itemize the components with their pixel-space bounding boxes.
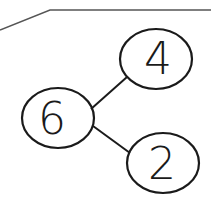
card-border-line: [0, 10, 211, 30]
part-bottom-label: 2: [148, 138, 176, 189]
whole-node: 6: [22, 88, 94, 148]
whole-label: 6: [38, 93, 66, 144]
part-node-top: 4: [120, 29, 192, 89]
part-top-label: 4: [144, 33, 172, 84]
part-node-bottom: 2: [127, 133, 199, 193]
number-bond-diagram: 4 6 2: [0, 0, 211, 209]
connector-whole-to-top-part: [91, 77, 127, 109]
connector-whole-to-bottom-part: [93, 126, 130, 153]
